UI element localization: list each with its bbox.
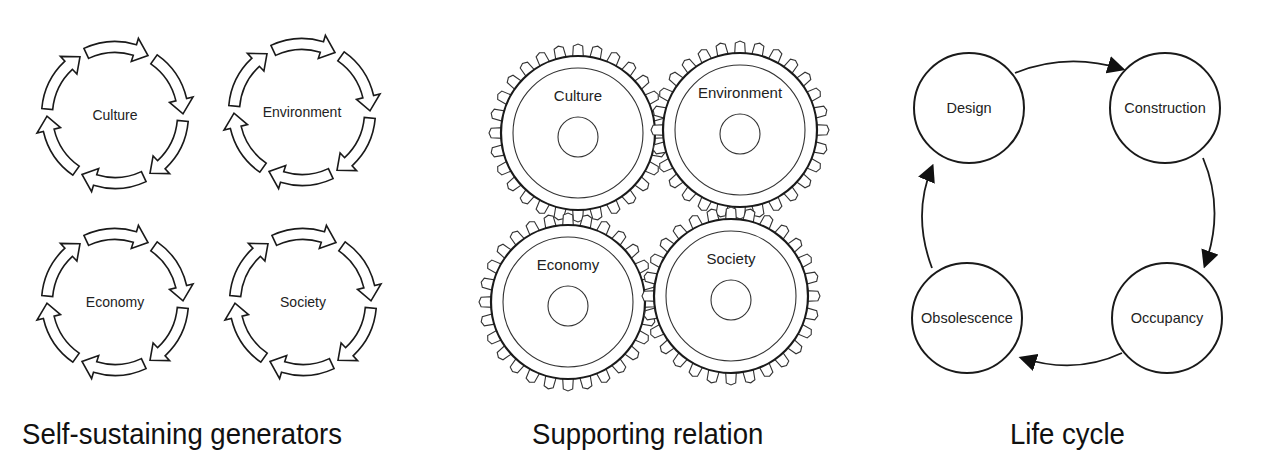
curved-arrow-icon: [339, 242, 381, 301]
curved-arrow-icon: [150, 120, 188, 173]
curved-arrow-icon: [82, 356, 146, 379]
gear-environment: Environment: [651, 41, 829, 219]
diagram-canvas: CultureEnvironmentEconomySociety Culture…: [0, 0, 1267, 475]
curved-arrow-icon: [37, 116, 79, 175]
gear-label: Culture: [554, 87, 602, 104]
curved-arrow-icon: [229, 53, 267, 106]
curved-arrow-icon: [150, 307, 188, 360]
curved-arrow-icon: [230, 243, 268, 296]
curved-arrow-icon: [338, 52, 380, 111]
cycle-label: Society: [280, 294, 326, 310]
stage-design: Design: [914, 53, 1024, 163]
stage-obsolescence: Obsolescence: [912, 263, 1022, 373]
curved-arrow-icon: [82, 169, 146, 192]
curved-arrow-icon: [151, 242, 193, 301]
arrow-design-to-construction: [1015, 61, 1122, 73]
arrow-occupancy-to-obsolescence: [1022, 353, 1122, 365]
curved-arrow-icon: [84, 225, 148, 248]
stage-construction: Construction: [1110, 53, 1220, 163]
self-sustaining-generators-panel: CultureEnvironmentEconomySociety: [37, 35, 381, 378]
gear-economy: Economy: [479, 213, 657, 391]
curved-arrow-icon: [272, 225, 336, 248]
curved-arrow-icon: [337, 117, 375, 170]
arrow-construction-to-occupancy: [1203, 158, 1215, 265]
curved-arrow-icon: [271, 35, 335, 58]
stage-label: Obsolescence: [921, 310, 1013, 326]
gear-rim: [663, 53, 817, 207]
gear-label: Society: [706, 250, 756, 267]
stage-label: Occupancy: [1131, 310, 1204, 326]
curved-arrow-icon: [224, 113, 266, 172]
cycle-culture: Culture: [37, 38, 193, 191]
stage-label: Design: [946, 100, 991, 116]
curved-arrow-icon: [225, 303, 267, 362]
cycle-label: Culture: [92, 107, 137, 123]
caption-life-cycle: Life cycle: [1010, 418, 1125, 451]
gear-rim: [491, 225, 645, 379]
gear-rim: [501, 56, 655, 210]
stage-label: Construction: [1124, 100, 1205, 116]
gear-culture: Culture: [489, 44, 667, 222]
life-cycle-panel: DesignConstructionOccupancyObsolescence: [912, 53, 1222, 373]
gear-label: Environment: [698, 84, 783, 101]
cycle-label: Economy: [86, 294, 144, 310]
curved-arrow-icon: [151, 55, 193, 114]
cycle-label: Environment: [263, 104, 342, 120]
cycle-environment: Environment: [224, 35, 380, 188]
curved-arrow-icon: [84, 38, 148, 61]
gear-label: Economy: [537, 256, 600, 273]
curved-arrow-icon: [37, 303, 79, 362]
caption-supporting-relation: Supporting relation: [532, 418, 763, 451]
gear-society: Society: [642, 207, 820, 385]
caption-self-sustaining-generators: Self-sustaining generators: [22, 418, 342, 451]
curved-arrow-icon: [42, 56, 80, 109]
cycle-economy: Economy: [37, 225, 193, 378]
curved-arrow-icon: [42, 243, 80, 296]
gear-rim: [654, 219, 808, 373]
curved-arrow-icon: [338, 307, 376, 360]
curved-arrow-icon: [270, 356, 334, 379]
stage-occupancy: Occupancy: [1112, 263, 1222, 373]
arrow-obsolescence-to-design: [922, 167, 932, 268]
cycle-society: Society: [225, 225, 381, 378]
curved-arrow-icon: [269, 166, 333, 189]
supporting-relation-panel: CultureEnvironmentEconomySociety: [479, 41, 829, 391]
